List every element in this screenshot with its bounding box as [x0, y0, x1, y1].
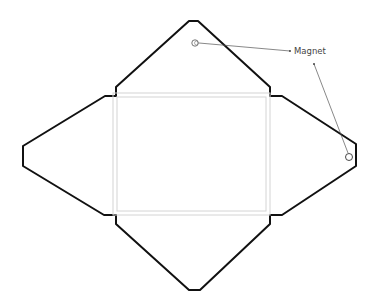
envelope-diagram: Magnet	[0, 0, 382, 305]
leader-dot-right	[313, 63, 315, 65]
envelope-outline	[23, 21, 356, 290]
leader-dot-top	[289, 50, 291, 52]
magnet-label: Magnet	[294, 46, 327, 56]
